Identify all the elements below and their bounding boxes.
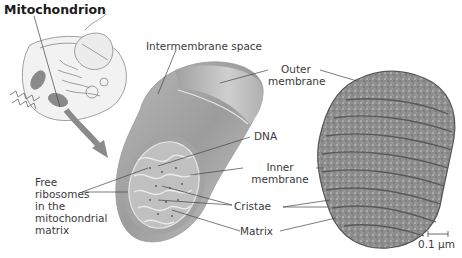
em-micrograph (318, 71, 455, 248)
label-inner-membrane: Inner membrane (244, 161, 316, 185)
label-matrix: Matrix (240, 225, 273, 237)
animal-cell-illustration (10, 14, 126, 121)
mitochondrion-cutaway (111, 62, 264, 245)
figure-title: Mitochondrion (4, 2, 106, 17)
label-cristae: Cristae (234, 200, 271, 212)
label-intermembrane-space: Intermembrane space (146, 40, 262, 52)
label-free-ribosomes-line4: mitochondrial (35, 212, 107, 224)
label-inner-membrane-line1: Inner (244, 161, 316, 173)
label-inner-membrane-line2: membrane (244, 173, 316, 185)
label-outer-membrane-line1: Outer (268, 63, 324, 75)
scale-bar-label: 0.1 µm (418, 238, 455, 250)
scale-bar (428, 231, 448, 237)
label-free-ribosomes-line1: Free (35, 176, 107, 188)
label-outer-membrane-line2: membrane (268, 75, 324, 87)
label-free-ribosomes: Free ribosomes in the mitochondrial matr… (35, 176, 107, 236)
label-free-ribosomes-line3: in the (35, 200, 107, 212)
label-dna: DNA (254, 130, 277, 142)
label-free-ribosomes-line2: ribosomes (35, 188, 107, 200)
label-free-ribosomes-line5: matrix (35, 224, 107, 236)
label-outer-membrane: Outer membrane (268, 63, 324, 87)
